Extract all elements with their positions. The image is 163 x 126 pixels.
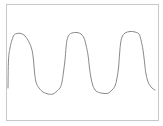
plot-frame <box>7 5 159 121</box>
waveform-line <box>8 31 155 94</box>
waveform-chart <box>0 0 163 126</box>
